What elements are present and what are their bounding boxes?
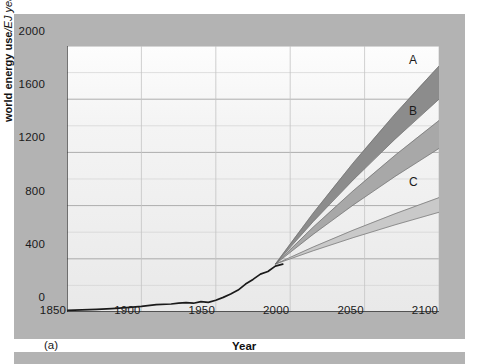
x-axis-label: Year xyxy=(232,340,256,352)
y-tick-label: 1600 xyxy=(1,78,45,90)
x-tick-label: 2050 xyxy=(321,304,381,316)
plot-area xyxy=(67,46,439,312)
x-tick-label: 1850 xyxy=(23,304,83,316)
figure-root: world energy use/EJ year−1 Year (a) 0400… xyxy=(0,0,479,364)
scenario-label-a: A xyxy=(409,53,417,67)
y-tick-label: 800 xyxy=(1,185,45,197)
y-tick-label: 0 xyxy=(1,291,45,303)
y-axis-label: world energy use/EJ year−1 xyxy=(0,0,14,122)
x-tick-label: 1950 xyxy=(172,304,232,316)
chart-svg xyxy=(67,46,439,312)
y-tick-label: 400 xyxy=(1,238,45,250)
x-tick-label: 2100 xyxy=(395,304,455,316)
panel-tag: (a) xyxy=(44,339,58,351)
y-tick-label: 1200 xyxy=(1,131,45,143)
scenario-label-b: B xyxy=(409,104,417,118)
y-tick-label: 2000 xyxy=(1,25,45,37)
x-tick-label: 1900 xyxy=(97,304,157,316)
figure-panel-a: world energy use/EJ year−1 Year (a) 0400… xyxy=(14,14,465,339)
x-tick-label: 2000 xyxy=(246,304,306,316)
figure-panel-b-edge xyxy=(14,352,465,364)
scenario-label-c: C xyxy=(409,175,418,189)
y-axis-label-bold: world energy use xyxy=(2,32,14,122)
